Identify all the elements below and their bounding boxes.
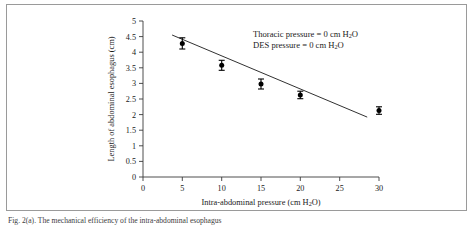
y-axis-ticks: 5 4.5 4 3.5 3 2.5 2 1.5 1 0.5 0 <box>126 17 143 182</box>
x-axis-title: Intra-abdominal pressure (cm H2O) <box>201 198 320 207</box>
data-point <box>376 107 382 115</box>
y-tick-label: 4 <box>132 48 136 57</box>
x-tick-label: 15 <box>257 184 265 193</box>
y-tick-label: 2.5 <box>126 95 136 104</box>
y-tick-label: 0 <box>132 173 136 182</box>
data-point <box>258 79 264 89</box>
figure-root: 5 4.5 4 3.5 3 2.5 2 1.5 1 0.5 0 <box>0 0 474 236</box>
y-tick-label: 1.5 <box>126 126 136 135</box>
x-axis-ticks: 0 5 10 15 20 25 30 <box>141 177 383 193</box>
data-point <box>219 60 225 70</box>
annotation-thoracic-after: O <box>352 29 358 39</box>
y-axis-title: Length of abdominal esophagus (cm) <box>107 36 116 161</box>
x-tick-label: 10 <box>218 184 226 193</box>
x-axis-title-after: O) <box>312 198 321 207</box>
y-tick-label: 3.5 <box>126 64 136 73</box>
data-point <box>179 38 185 49</box>
y-tick-label: 5 <box>132 17 136 26</box>
y-tick-label: 1 <box>132 142 136 151</box>
x-tick-label: 25 <box>336 184 344 193</box>
y-tick-label: 4.5 <box>126 33 136 42</box>
annotation-thoracic-pressure: Thoracic pressure = 0 cm H2O <box>253 29 358 39</box>
annotation-des-before: DES pressure = 0 cm H <box>253 40 334 50</box>
x-tick-label: 5 <box>180 184 184 193</box>
y-tick-label: 2 <box>132 111 136 120</box>
x-axis-title-before: Intra-abdominal pressure (cm H <box>201 198 308 207</box>
annotation-des-pressure: DES pressure = 0 cm H2O <box>253 40 344 50</box>
chart-frame: 5 4.5 4 3.5 3 2.5 2 1.5 1 0.5 0 <box>6 4 467 211</box>
x-tick-label: 30 <box>375 184 383 193</box>
annotation-thoracic-before: Thoracic pressure = 0 cm H <box>253 29 349 39</box>
x-tick-label: 20 <box>296 184 304 193</box>
scatter-plot: 5 4.5 4 3.5 3 2.5 2 1.5 1 0.5 0 <box>7 5 468 212</box>
figure-caption: Fig. 2(a). The mechanical efficiency of … <box>8 216 468 226</box>
y-tick-label: 0.5 <box>126 157 136 166</box>
x-tick-label: 0 <box>141 184 145 193</box>
y-tick-label: 3 <box>132 79 136 88</box>
annotation-des-after: O <box>338 40 344 50</box>
data-point <box>297 91 303 99</box>
